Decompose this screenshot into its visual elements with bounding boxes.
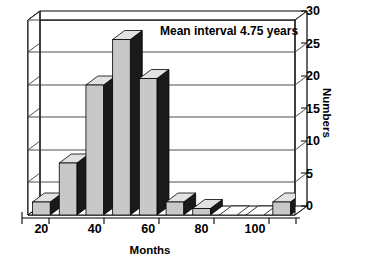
bar-front-face <box>33 202 51 215</box>
bar-column <box>86 76 116 215</box>
bar-side-face <box>157 70 169 216</box>
mean-interval-annotation: Mean interval 4.75 years <box>160 24 298 38</box>
bar-front-face <box>273 202 291 215</box>
x-axis-title: Months <box>0 244 300 256</box>
plot-area <box>28 20 295 215</box>
back-wall-top <box>28 11 307 20</box>
bar-front-face <box>193 209 211 216</box>
bars-layer <box>28 20 295 215</box>
bar-column <box>59 154 89 215</box>
y-axis-tick-label: 20 <box>306 70 320 83</box>
x-axis-tick-label: 60 <box>128 222 168 236</box>
bar-front-face <box>139 79 157 216</box>
x-axis-tick-label: 100 <box>235 222 275 236</box>
y-axis-tick-label: 15 <box>306 103 320 116</box>
bar-front-face <box>86 85 104 215</box>
y-axis-tick-label: 30 <box>306 5 320 18</box>
x-axis-tick-label: 80 <box>182 222 222 236</box>
y-axis-tick-label: 0 <box>306 200 313 213</box>
bar-column <box>139 70 169 216</box>
bar-column <box>33 193 63 215</box>
bar-front-face <box>113 40 131 216</box>
bar-column <box>113 31 143 216</box>
bar-column <box>166 193 196 215</box>
bar-front-face <box>59 163 77 215</box>
bar-column <box>219 206 249 215</box>
y-axis-tick-label: 10 <box>306 135 320 148</box>
bar-column <box>273 193 295 215</box>
y-axis-tick-label: 5 <box>306 168 313 181</box>
bar-front-face <box>166 202 184 215</box>
bar-zero-tile <box>246 206 276 215</box>
bar-column <box>246 206 276 215</box>
y-axis-title: Numbers <box>321 88 333 138</box>
x-axis-tick-label: 40 <box>75 222 115 236</box>
x-axis-tick-label: 20 <box>21 222 61 236</box>
y-axis-tick-label: 25 <box>306 38 320 51</box>
bar-column <box>193 200 223 216</box>
bar-chart: 051015202530 20406080100 Months Numbers … <box>0 0 375 270</box>
bar-top-face <box>273 193 295 202</box>
bar-zero-tile <box>219 206 249 215</box>
